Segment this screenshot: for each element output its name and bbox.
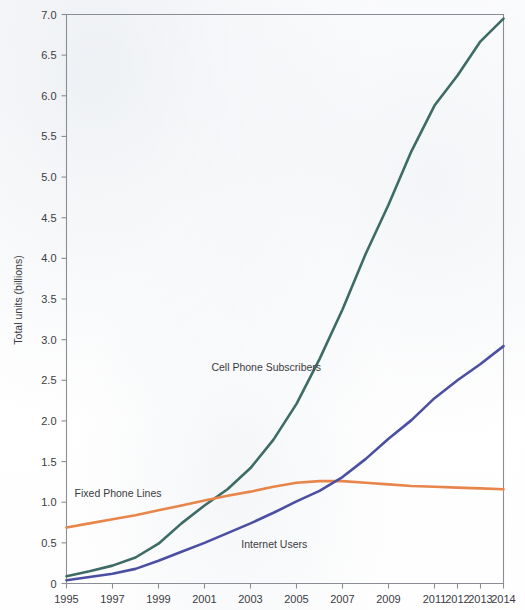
x-tick-label: 2013 [468,593,492,605]
y-tick-label: 2.5 [41,374,56,386]
x-tick-label: 1999 [146,593,170,605]
y-axis-ticks [62,15,67,584]
series-label-cell-phone-subscribers: Cell Phone Subscribers [211,361,321,373]
x-tick-label: 2012 [445,593,469,605]
y-tick-label: 2.0 [41,415,56,427]
y-tick-label: 1.0 [41,496,56,508]
y-tick-label: 0 [50,578,56,590]
x-tick-label: 1995 [54,593,78,605]
y-tick-label: 4.0 [41,252,56,264]
series-label-fixed-phone-lines: Fixed Phone Lines [75,487,162,499]
y-tick-label: 7.0 [41,9,56,21]
series-inline-labels: Cell Phone SubscribersFixed Phone LinesI… [75,361,322,550]
x-axis-tick-labels: 1995199719992001200320052007200920112012… [54,593,515,605]
x-axis-ticks [67,584,504,589]
chart-canvas: 00.51.01.52.02.53.03.54.04.55.05.56.06.5… [0,0,525,610]
x-tick-label: 2011 [423,593,447,605]
y-tick-label: 6.5 [41,49,56,61]
y-tick-label: 3.0 [41,334,56,346]
series-label-internet-users: Internet Users [241,538,307,550]
x-tick-label: 2003 [238,593,262,605]
y-tick-label: 5.5 [41,130,56,142]
y-tick-label: 4.5 [41,212,56,224]
y-tick-label: 3.5 [41,293,56,305]
y-tick-label: 5.0 [41,171,56,183]
x-tick-label: 2001 [192,593,216,605]
x-tick-label: 2009 [376,593,400,605]
y-tick-label: 1.5 [41,456,56,468]
y-axis-tick-labels: 00.51.01.52.02.53.03.54.04.55.05.56.06.5… [41,9,56,590]
line-chart: 00.51.01.52.02.53.03.54.04.55.05.56.06.5… [0,0,525,610]
y-tick-label: 0.5 [41,537,56,549]
x-tick-label: 2007 [330,593,354,605]
x-tick-label: 1997 [100,593,124,605]
x-tick-label: 2005 [284,593,308,605]
y-tick-label: 6.0 [41,90,56,102]
y-axis-title: Total units (billions) [12,255,24,344]
x-tick-label: 2014 [491,593,515,605]
